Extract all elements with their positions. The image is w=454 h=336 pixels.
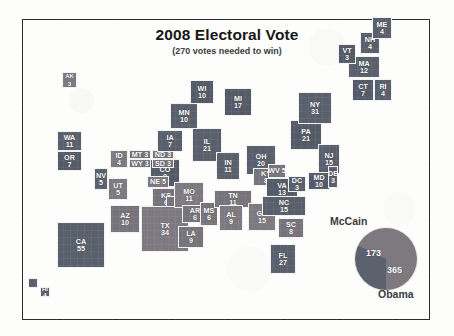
state-tile-mi[interactable]: MI17 xyxy=(224,88,252,116)
pie-value-mccain: 173 xyxy=(366,248,381,258)
state-votes-dc: 3 xyxy=(295,184,299,191)
state-votes-mi: 17 xyxy=(234,102,242,109)
state-tile-wy[interactable]: WY3 xyxy=(129,159,151,168)
vote-pie-chart xyxy=(355,228,417,290)
state-tile-or[interactable]: OR7 xyxy=(57,151,82,171)
state-votes-ct: 7 xyxy=(361,90,365,97)
state-tile-hi[interactable]: HI4 xyxy=(40,287,50,297)
state-tile-wa[interactable]: WA11 xyxy=(57,131,82,151)
state-tile-de[interactable]: DE3 xyxy=(328,166,338,188)
state-tile-mt[interactable]: MT3 xyxy=(129,150,151,159)
state-tile-al[interactable]: AL9 xyxy=(219,205,243,231)
state-tile-ut[interactable]: UT5 xyxy=(108,178,128,200)
state-votes-ar: 6 xyxy=(193,214,197,221)
legend-label-mccain: McCain xyxy=(330,215,367,227)
state-votes-wa: 11 xyxy=(66,141,74,148)
state-tile-az[interactable]: AZ10 xyxy=(110,205,140,233)
state-votes-ut: 5 xyxy=(116,189,120,196)
state-tile-sc[interactable]: SC8 xyxy=(278,218,304,238)
state-votes-ca: 55 xyxy=(77,245,85,252)
state-votes-la: 9 xyxy=(189,237,193,244)
state-tile-mn[interactable]: MN10 xyxy=(170,103,198,129)
state-votes-fl: 27 xyxy=(279,259,287,266)
state-votes-in: 11 xyxy=(224,166,232,173)
state-tile-md[interactable]: MD10 xyxy=(308,172,330,190)
state-tile-id[interactable]: ID4 xyxy=(110,150,128,168)
state-votes-ny: 31 xyxy=(311,108,319,115)
state-abbrev-mt: MT xyxy=(132,151,142,158)
state-votes-hi: 4 xyxy=(43,292,46,297)
state-votes-or: 7 xyxy=(68,161,72,168)
state-tile-nv[interactable]: NV5 xyxy=(94,168,108,190)
state-tile-ne[interactable]: NE5 xyxy=(147,176,169,188)
state-votes-sd: 3 xyxy=(167,160,171,167)
state-abbrev-wy: WY xyxy=(131,160,143,167)
state-tile-ak[interactable]: AK3 xyxy=(62,72,77,88)
state-votes-sc: 8 xyxy=(289,228,293,235)
state-tile-ca[interactable]: CA55 xyxy=(57,222,105,268)
state-tile-wv[interactable]: WV5 xyxy=(268,164,286,178)
state-tile-la[interactable]: LA9 xyxy=(178,226,204,248)
state-votes-pa: 21 xyxy=(302,135,310,142)
state-votes-ak: 3 xyxy=(68,81,71,87)
state-votes-md: 10 xyxy=(315,181,323,188)
state-votes-il: 21 xyxy=(203,145,211,152)
state-votes-ma: 12 xyxy=(360,67,368,74)
state-votes-wv: 5 xyxy=(282,167,286,174)
state-votes-ia: 7 xyxy=(168,141,172,148)
state-tile-nc[interactable]: NC15 xyxy=(262,196,306,216)
legend-label-obama: Obama xyxy=(378,288,414,300)
state-votes-ga: 15 xyxy=(258,217,266,224)
state-votes-ne: 5 xyxy=(162,178,166,185)
state-tile-hi-island xyxy=(28,278,38,288)
state-votes-tx: 34 xyxy=(161,229,169,236)
state-tile-me[interactable]: ME4 xyxy=(372,17,392,39)
state-votes-ri: 4 xyxy=(381,90,385,97)
state-tile-ia[interactable]: IA7 xyxy=(157,130,183,152)
state-abbrev-sd: SD xyxy=(155,160,165,167)
state-votes-mt: 3 xyxy=(144,151,148,158)
state-abbrev-ne: NE xyxy=(150,178,160,185)
state-tile-dc[interactable]: DC3 xyxy=(288,176,306,192)
state-votes-wi: 10 xyxy=(198,92,206,99)
state-abbrev-wv: WV xyxy=(268,167,280,174)
state-abbrev-ak: AK xyxy=(65,73,74,79)
state-tile-in[interactable]: IN11 xyxy=(216,152,240,180)
electoral-map-page: 2008 Electoral Vote (270 votes needed to… xyxy=(0,0,454,336)
state-votes-oh: 20 xyxy=(257,160,265,167)
state-votes-nc: 15 xyxy=(280,206,288,213)
state-votes-al: 9 xyxy=(229,218,233,225)
state-tile-ny[interactable]: NY31 xyxy=(298,92,332,124)
state-tile-vt[interactable]: VT3 xyxy=(338,44,356,64)
state-votes-az: 10 xyxy=(121,219,129,226)
state-votes-me: 4 xyxy=(380,28,384,35)
state-votes-de: 3 xyxy=(331,177,335,184)
state-votes-mo: 11 xyxy=(185,195,193,202)
state-votes-ms: 6 xyxy=(207,214,211,221)
state-tile-wi[interactable]: WI10 xyxy=(190,80,214,104)
state-tile-ri[interactable]: RI4 xyxy=(374,79,392,101)
state-votes-vt: 3 xyxy=(345,54,349,61)
state-tile-ct[interactable]: CT7 xyxy=(352,79,374,101)
state-votes-id: 4 xyxy=(117,159,121,166)
state-votes-nh: 4 xyxy=(368,43,372,50)
state-tile-fl[interactable]: FL27 xyxy=(270,244,296,274)
state-votes-nv: 5 xyxy=(99,179,103,186)
pie-value-obama: 365 xyxy=(387,265,402,275)
state-votes-wy: 3 xyxy=(145,160,149,167)
state-tile-sd[interactable]: SD3 xyxy=(152,159,174,168)
state-votes-mn: 10 xyxy=(180,116,188,123)
